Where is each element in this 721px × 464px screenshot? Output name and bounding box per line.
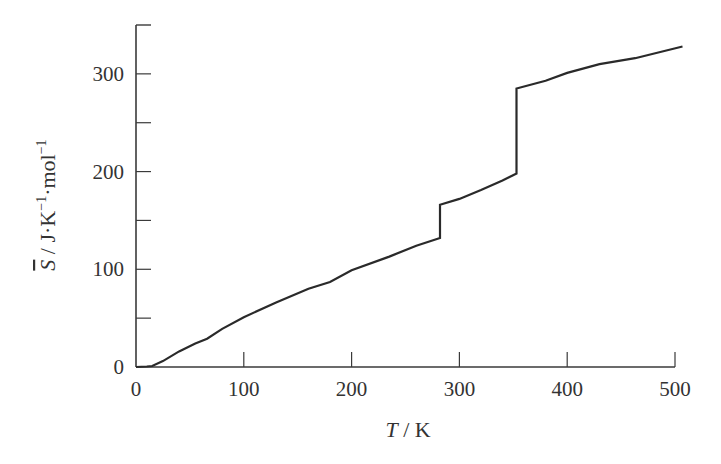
y-axis-title-group: S / J·K−1·mol−1 bbox=[34, 139, 60, 270]
x-tick-label: 100 bbox=[228, 377, 260, 401]
x-axis-title: T / K bbox=[385, 417, 430, 442]
y-tick-label: 100 bbox=[93, 257, 125, 281]
x-tick-label: 500 bbox=[659, 377, 691, 401]
y-tick-label: 300 bbox=[93, 62, 125, 86]
y-axis-sup-2: −1 bbox=[34, 139, 49, 154]
y-tick-label: 200 bbox=[93, 160, 125, 184]
x-tick-label: 300 bbox=[444, 377, 476, 401]
y-axis-sup-1: −1 bbox=[34, 196, 49, 211]
x-tick-label: 0 bbox=[131, 377, 142, 401]
y-axis-var: S bbox=[35, 260, 60, 271]
x-tick-label: 200 bbox=[336, 377, 368, 401]
entropy-curve bbox=[136, 47, 683, 368]
y-axis-title: S / J·K−1·mol−1 bbox=[34, 139, 60, 270]
tick-marks bbox=[136, 74, 675, 367]
x-tick-label: 400 bbox=[551, 377, 583, 401]
y-axis-unit-b: ·mol bbox=[35, 154, 60, 196]
y-tick-label: 0 bbox=[114, 355, 125, 379]
x-axis-unit: / K bbox=[398, 417, 431, 442]
y-axis-unit-a: / J·K bbox=[35, 211, 60, 260]
entropy-chart: 01002003004005000100200300 T / K S / J·K… bbox=[0, 0, 721, 464]
axes bbox=[136, 25, 675, 367]
